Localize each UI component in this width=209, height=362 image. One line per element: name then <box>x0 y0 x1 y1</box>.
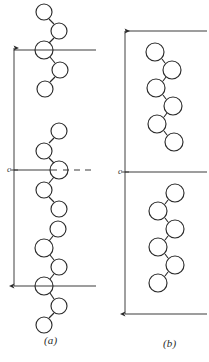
atom <box>148 115 166 133</box>
atom <box>163 61 181 79</box>
atom <box>147 79 165 97</box>
atom <box>52 62 68 78</box>
panel-a-repeat-label: c <box>7 164 11 174</box>
atom <box>149 202 167 220</box>
atom <box>166 256 184 274</box>
atom <box>149 238 167 256</box>
panel-b-chain-lower <box>149 184 184 292</box>
panel-a-chain-lower <box>35 221 67 333</box>
atom <box>36 317 52 333</box>
panel-a <box>10 4 96 333</box>
bond <box>164 131 167 135</box>
atom <box>166 184 184 202</box>
panel-b-reference-lines <box>125 31 207 314</box>
atom <box>51 298 67 314</box>
bond <box>165 272 168 276</box>
bond <box>49 177 54 183</box>
atom <box>166 220 184 238</box>
atom <box>36 182 52 198</box>
bond <box>162 59 165 63</box>
atom <box>36 4 52 20</box>
panel-b-chain-upper <box>146 43 183 151</box>
panel-a-reference-lines <box>14 50 96 286</box>
atom <box>36 143 52 159</box>
atom <box>165 133 183 151</box>
bond <box>49 313 54 318</box>
bond <box>163 95 166 99</box>
atom <box>149 274 167 292</box>
bond <box>49 38 54 43</box>
bond <box>49 158 54 163</box>
bond <box>50 57 55 63</box>
bond <box>165 200 168 204</box>
bond <box>165 254 168 258</box>
bond <box>165 218 168 222</box>
panel-a-caption: (a) <box>44 334 57 346</box>
bond <box>50 293 54 299</box>
panel-b <box>121 31 207 314</box>
bond <box>165 236 168 240</box>
bond <box>163 77 166 81</box>
bond <box>164 113 167 117</box>
chain-packing-diagram <box>0 0 209 362</box>
bond <box>50 77 55 82</box>
atom <box>51 201 67 217</box>
bond <box>49 197 54 202</box>
bond <box>50 255 54 260</box>
atom <box>146 43 164 61</box>
bond <box>50 274 54 279</box>
panel-a-repeat-arrow <box>10 48 18 286</box>
atom <box>51 23 67 39</box>
panel-b-repeat-label: c <box>118 166 122 176</box>
atom <box>35 239 53 257</box>
atom <box>37 81 53 97</box>
atom <box>51 259 67 275</box>
atom <box>50 221 66 237</box>
atom <box>51 123 67 139</box>
figure-container: c c (a) (b) <box>0 0 209 362</box>
atom <box>164 97 182 115</box>
bond <box>49 138 54 143</box>
bond <box>49 19 54 24</box>
panel-b-caption: (b) <box>163 337 176 349</box>
